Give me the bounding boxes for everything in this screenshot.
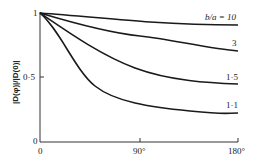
curve-b-a-1.5	[40, 13, 238, 84]
x-tick-label-180: 180°	[228, 146, 246, 156]
label-1.5: 1·5	[226, 72, 238, 82]
curve-b-a-1.1	[40, 13, 238, 114]
chart: 1 0·5 0 0 90° 180° |D(φ)|/|D(0)| b/a = 1…	[0, 0, 255, 162]
label-3: 3	[232, 38, 237, 48]
label-b-a-10: b/a = 10	[205, 12, 237, 22]
x-tick-label-90: 90°	[133, 146, 146, 156]
y-tick-label-1: 1	[33, 8, 38, 18]
y-tick-label-0: 0	[33, 136, 38, 146]
x-tick-label-0: 0	[38, 146, 43, 156]
label-1.1: 1·1	[226, 100, 238, 110]
y-tick-label-0.5: 0·5	[23, 72, 35, 82]
y-axis-title: |D(φ)|/|D(0)|	[11, 60, 20, 104]
